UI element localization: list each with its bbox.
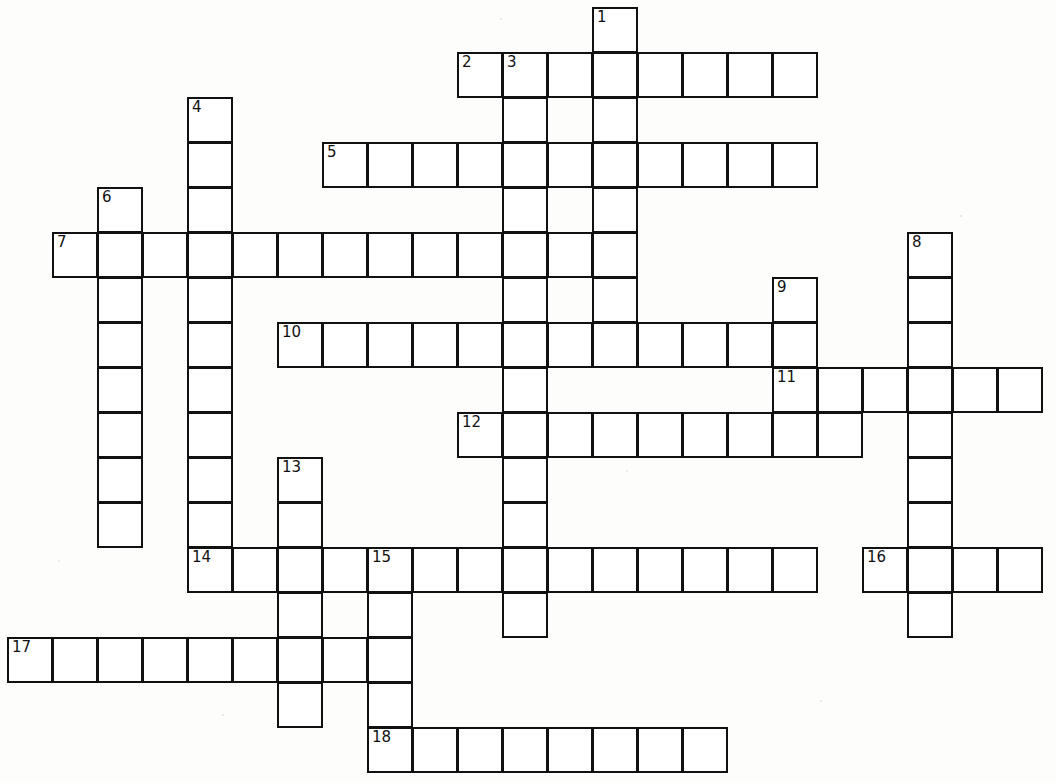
crossword-cell-start-12[interactable]: 12: [457, 412, 503, 458]
crossword-cell[interactable]: [187, 457, 233, 503]
crossword-cell[interactable]: [772, 52, 818, 98]
crossword-cell-start-4[interactable]: 4: [187, 97, 233, 143]
crossword-cell[interactable]: [862, 367, 908, 413]
crossword-cell[interactable]: [142, 232, 188, 278]
crossword-cell[interactable]: [187, 232, 233, 278]
crossword-cell[interactable]: [547, 547, 593, 593]
crossword-cell-start-6[interactable]: 6: [97, 187, 143, 233]
crossword-cell[interactable]: [592, 322, 638, 368]
crossword-cell-start-14[interactable]: 14: [187, 547, 233, 593]
crossword-cell[interactable]: [952, 547, 998, 593]
crossword-cell[interactable]: [907, 412, 953, 458]
crossword-cell[interactable]: [592, 277, 638, 323]
crossword-cell[interactable]: [907, 547, 953, 593]
crossword-cell[interactable]: [412, 547, 458, 593]
crossword-cell[interactable]: [502, 97, 548, 143]
crossword-cell[interactable]: [817, 367, 863, 413]
crossword-cell[interactable]: [997, 367, 1043, 413]
crossword-cell[interactable]: [367, 592, 413, 638]
crossword-cell[interactable]: [277, 592, 323, 638]
crossword-cell[interactable]: [412, 322, 458, 368]
crossword-cell[interactable]: [772, 142, 818, 188]
crossword-cell[interactable]: [547, 322, 593, 368]
crossword-cell[interactable]: [412, 232, 458, 278]
crossword-cell[interactable]: [682, 52, 728, 98]
crossword-cell[interactable]: [772, 322, 818, 368]
crossword-cell[interactable]: [727, 142, 773, 188]
crossword-cell-start-18[interactable]: 18: [367, 727, 413, 773]
crossword-cell[interactable]: [772, 412, 818, 458]
crossword-cell-start-13[interactable]: 13: [277, 457, 323, 503]
crossword-cell[interactable]: [187, 187, 233, 233]
crossword-cell[interactable]: [367, 637, 413, 683]
crossword-cell[interactable]: [682, 322, 728, 368]
crossword-cell[interactable]: [592, 727, 638, 773]
crossword-cell[interactable]: [97, 277, 143, 323]
crossword-cell-start-8[interactable]: 8: [907, 232, 953, 278]
crossword-cell[interactable]: [592, 142, 638, 188]
crossword-cell[interactable]: [817, 412, 863, 458]
crossword-cell[interactable]: [907, 457, 953, 503]
crossword-cell[interactable]: [547, 142, 593, 188]
crossword-cell[interactable]: [637, 322, 683, 368]
crossword-cell[interactable]: [97, 322, 143, 368]
crossword-cell[interactable]: [637, 412, 683, 458]
crossword-cell[interactable]: [502, 412, 548, 458]
crossword-cell-start-3[interactable]: 3: [502, 52, 548, 98]
crossword-cell[interactable]: [997, 547, 1043, 593]
crossword-cell-start-1[interactable]: 1: [592, 7, 638, 53]
crossword-cell[interactable]: [907, 367, 953, 413]
crossword-cell[interactable]: [727, 52, 773, 98]
crossword-cell[interactable]: [412, 142, 458, 188]
crossword-cell[interactable]: [592, 52, 638, 98]
crossword-cell[interactable]: [727, 412, 773, 458]
crossword-cell[interactable]: [547, 232, 593, 278]
crossword-cell[interactable]: [367, 142, 413, 188]
crossword-cell[interactable]: [682, 412, 728, 458]
crossword-cell-start-5[interactable]: 5: [322, 142, 368, 188]
crossword-cell[interactable]: [502, 187, 548, 233]
crossword-cell[interactable]: [727, 322, 773, 368]
crossword-cell[interactable]: [187, 322, 233, 368]
crossword-cell[interactable]: [682, 142, 728, 188]
crossword-cell[interactable]: [187, 367, 233, 413]
crossword-cell[interactable]: [412, 727, 458, 773]
crossword-cell[interactable]: [277, 637, 323, 683]
crossword-cell-start-7[interactable]: 7: [52, 232, 98, 278]
crossword-cell[interactable]: [232, 547, 278, 593]
crossword-cell[interactable]: [232, 232, 278, 278]
crossword-cell[interactable]: [592, 187, 638, 233]
crossword-cell[interactable]: [637, 142, 683, 188]
crossword-cell[interactable]: [457, 322, 503, 368]
crossword-cell[interactable]: [502, 727, 548, 773]
crossword-cell[interactable]: [592, 232, 638, 278]
crossword-cell[interactable]: [502, 142, 548, 188]
crossword-cell[interactable]: [457, 232, 503, 278]
crossword-cell[interactable]: [637, 727, 683, 773]
crossword-cell[interactable]: [322, 232, 368, 278]
crossword-cell[interactable]: [952, 367, 998, 413]
crossword-cell[interactable]: [502, 367, 548, 413]
crossword-cell[interactable]: [637, 52, 683, 98]
crossword-cell[interactable]: [277, 682, 323, 728]
crossword-cell[interactable]: [97, 502, 143, 548]
crossword-cell[interactable]: [547, 412, 593, 458]
crossword-cell-start-10[interactable]: 10: [277, 322, 323, 368]
crossword-cell[interactable]: [727, 547, 773, 593]
crossword-cell[interactable]: [502, 502, 548, 548]
crossword-cell[interactable]: [187, 637, 233, 683]
crossword-cell[interactable]: [682, 727, 728, 773]
crossword-cell[interactable]: [502, 277, 548, 323]
crossword-cell[interactable]: [52, 637, 98, 683]
crossword-cell[interactable]: [592, 412, 638, 458]
crossword-cell[interactable]: [547, 727, 593, 773]
crossword-cell[interactable]: [277, 232, 323, 278]
crossword-cell[interactable]: [502, 232, 548, 278]
crossword-cell-start-11[interactable]: 11: [772, 367, 818, 413]
crossword-cell[interactable]: [367, 322, 413, 368]
crossword-cell[interactable]: [502, 547, 548, 593]
crossword-cell[interactable]: [97, 457, 143, 503]
crossword-cell[interactable]: [772, 547, 818, 593]
crossword-cell[interactable]: [277, 547, 323, 593]
crossword-cell[interactable]: [187, 277, 233, 323]
